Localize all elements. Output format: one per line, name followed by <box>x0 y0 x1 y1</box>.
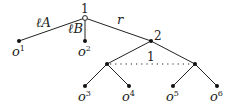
leaf-node-o6 <box>215 84 219 88</box>
node-2 <box>149 39 153 43</box>
game-tree: 1 2 1 ℓA ℓB r o1 o2 o3 o4 o5 o6 <box>0 0 237 108</box>
edge-2-left <box>107 41 151 64</box>
edge-label-lB: ℓB <box>68 21 83 36</box>
edge-label-r: r <box>117 12 124 27</box>
leaf-node-o4 <box>127 84 131 88</box>
edge-o3 <box>85 64 107 86</box>
leaf-label-o4: o4 <box>122 89 135 104</box>
edge-o4 <box>107 64 129 86</box>
edge-label-lA: ℓA <box>36 15 51 30</box>
leaf-label-o1: o1 <box>12 44 25 59</box>
edge-o6 <box>195 64 217 86</box>
leaf-node-o3 <box>83 84 87 88</box>
root-node <box>83 16 88 21</box>
leaf-node-o5 <box>171 84 175 88</box>
node-right <box>193 62 197 66</box>
leaf-label-o3: o3 <box>78 89 91 104</box>
leaf-node-o2 <box>83 39 87 43</box>
leaf-node-o1 <box>17 39 21 43</box>
leaf-label-o6: o6 <box>210 89 223 104</box>
edge-o5 <box>173 64 195 86</box>
node-2-label: 2 <box>154 29 162 43</box>
leaf-label-o5: o5 <box>166 89 179 104</box>
root-label: 1 <box>81 2 89 16</box>
leaf-label-o2: o2 <box>78 44 91 59</box>
info-set-label: 1 <box>147 50 155 64</box>
edge-2-right <box>151 41 195 64</box>
node-left <box>105 62 109 66</box>
